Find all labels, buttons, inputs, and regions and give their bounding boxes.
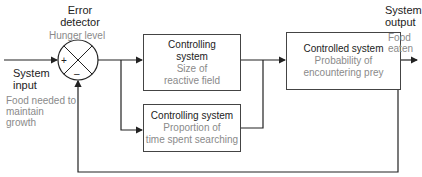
system-input-desc-line1: Food needed to <box>6 95 76 106</box>
controlling-system-2-box: Controlling system Proportion of time sp… <box>143 104 241 152</box>
system-output-description: Food eaten <box>388 32 413 54</box>
system-output-title-line1: System <box>385 4 422 16</box>
error-detector-title-line1: Error <box>55 4 105 16</box>
system-input-title-line2: input <box>13 79 50 91</box>
controlled-system-title: Controlled system <box>303 43 383 55</box>
controlling-system-2-desc-line1: Proportion of <box>163 122 220 134</box>
controlled-system-box: Controlled system Probability of encount… <box>286 32 401 90</box>
controlled-system-desc-line2: encountering prey <box>303 67 383 79</box>
system-input-title: System input <box>13 67 50 91</box>
system-output-title: System output <box>385 4 422 28</box>
controller2-output-line <box>240 60 263 128</box>
system-input-desc-line3: growth <box>6 117 76 128</box>
controlling-system-1-desc-line2: reactive field <box>164 75 220 87</box>
controlling-system-1-title-line1: Controlling <box>168 39 216 51</box>
error-detector-subtitle: Hunger level <box>49 30 105 41</box>
minus-sign: – <box>74 68 80 79</box>
error-detector-title: Error detector <box>55 4 105 28</box>
controlling-system-2-title: Controlling system <box>151 110 233 122</box>
system-input-desc-line2: maintain <box>6 106 76 117</box>
system-output-title-line2: output <box>385 16 422 28</box>
plus-sign: + <box>61 55 67 66</box>
controlling-system-2-desc-line2: time spent searching <box>146 134 238 146</box>
controlling-system-1-box: Controlling system Size of reactive fiel… <box>143 34 241 91</box>
system-output-desc-line2: eaten <box>388 43 413 54</box>
controlled-system-desc-line1: Probability of <box>315 55 373 67</box>
system-input-description: Food needed to maintain growth <box>6 95 76 128</box>
detector-to-controller2-arrow <box>121 60 142 130</box>
system-input-title-line1: System <box>13 67 50 79</box>
controlling-system-1-desc-line1: Size of <box>177 63 208 75</box>
controlling-system-1-title-line2: system <box>176 51 208 63</box>
error-detector-title-line2: detector <box>55 16 105 28</box>
system-output-desc-line1: Food <box>388 32 413 43</box>
